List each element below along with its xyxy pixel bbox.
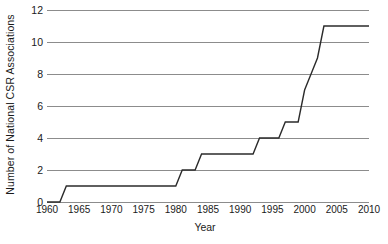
x-tick-label: 1970 [100, 205, 122, 215]
x-tick-label: 2000 [293, 205, 315, 215]
x-tick-label: 1965 [68, 205, 90, 215]
x-tick-label: 1985 [197, 205, 219, 215]
y-tick-label: 10 [31, 37, 47, 48]
x-tick-label: 2010 [358, 205, 380, 215]
x-tick-label: 1980 [165, 205, 187, 215]
x-tick-label: 1975 [132, 205, 154, 215]
data-line [47, 10, 369, 202]
y-tick-label: 6 [37, 101, 47, 112]
x-tick-label: 1990 [229, 205, 251, 215]
y-tick-label: 8 [37, 69, 47, 80]
y-axis-label: Number of National CSR Associations [2, 2, 18, 207]
y-tick-label: 12 [31, 5, 47, 16]
x-axis-label: Year [40, 221, 370, 233]
csr-associations-line-chart: Number of National CSR Associations 0246… [0, 0, 388, 244]
x-tick-label: 1995 [261, 205, 283, 215]
x-tick-label: 2005 [326, 205, 348, 215]
y-tick-label: 2 [37, 165, 47, 176]
x-tick-label: 1960 [36, 205, 58, 215]
plot-area: 024681012 196019651970197519801985199019… [47, 10, 369, 202]
y-tick-label: 4 [37, 133, 47, 144]
